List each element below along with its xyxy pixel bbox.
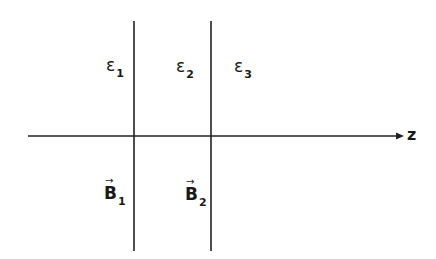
vector-arrow-icon: → xyxy=(186,177,193,187)
permittivity-subscript: 3 xyxy=(244,68,252,81)
field-symbol: B xyxy=(185,184,198,204)
permittivity-label-1: ε1 xyxy=(106,57,124,74)
permittivity-symbol: ε xyxy=(176,56,185,76)
field-subscript: 2 xyxy=(199,196,207,209)
permittivity-symbol: ε xyxy=(106,55,115,75)
field-symbol: B xyxy=(104,183,117,203)
permittivity-subscript: 1 xyxy=(116,67,124,80)
permittivity-label-2: ε2 xyxy=(176,58,194,75)
field-vector-label-2: →B2 xyxy=(185,186,207,203)
permittivity-symbol: ε xyxy=(234,56,243,76)
permittivity-subscript: 2 xyxy=(186,68,194,81)
field-subscript: 1 xyxy=(118,195,126,208)
vector-arrow-icon: → xyxy=(105,176,112,186)
field-vector-label-1: →B1 xyxy=(104,185,126,202)
z-axis-label: z xyxy=(407,127,416,143)
field-vector-symbol: →B xyxy=(185,186,198,203)
z-axis-label-text: z xyxy=(407,125,416,144)
diagram-canvas xyxy=(0,0,436,259)
z-axis-arrowhead-icon xyxy=(396,133,404,140)
field-vector-symbol: →B xyxy=(104,185,117,202)
permittivity-label-3: ε3 xyxy=(234,58,252,75)
